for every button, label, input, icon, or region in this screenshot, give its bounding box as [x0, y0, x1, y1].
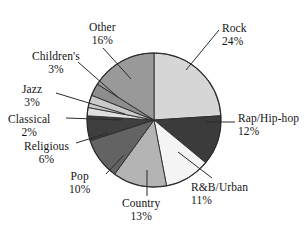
slice-label-other-name: Other [89, 21, 116, 34]
slice-label-country-name: Country [122, 197, 160, 210]
slice-label-other-percent: 16% [89, 34, 116, 47]
slice-label-rnb-urban-name: R&B/Urban [191, 181, 248, 194]
slice-label-jazz-percent: 3% [22, 96, 42, 109]
slice-label-religious: Religious 6% [24, 140, 69, 166]
slice-label-rock-name: Rock [222, 22, 247, 35]
pie-slice-group [87, 53, 221, 187]
slice-label-other: Other 16% [89, 21, 116, 47]
slice-label-rap-hip-hop: Rap/Hip-hop 12% [238, 112, 299, 138]
slice-label-rnb-urban: R&B/Urban 11% [191, 181, 248, 207]
slice-label-childrens: Children's 3% [32, 50, 80, 76]
slice-label-jazz: Jazz 3% [22, 83, 42, 109]
pie-slice-rock [154, 53, 221, 120]
slice-label-country: Country 13% [122, 197, 160, 223]
slice-label-pop-name: Pop [69, 170, 90, 183]
leader-line-rock [186, 30, 219, 70]
slice-label-rock-percent: 24% [222, 35, 247, 48]
slice-label-childrens-name: Children's [32, 50, 80, 63]
pie-chart: Rock 24% Rap/Hip-hop 12% R&B/Urban 11% C… [0, 0, 308, 236]
slice-label-classical-percent: 2% [8, 126, 50, 139]
slice-label-classical-name: Classical [8, 113, 50, 126]
slice-label-childrens-percent: 3% [32, 63, 80, 76]
slice-label-religious-name: Religious [24, 140, 69, 153]
slice-label-pop: Pop 10% [69, 170, 90, 196]
slice-label-pop-percent: 10% [69, 183, 90, 196]
slice-label-rap-hip-hop-name: Rap/Hip-hop [238, 112, 299, 125]
slice-label-religious-percent: 6% [24, 153, 69, 166]
slice-label-rock: Rock 24% [222, 22, 247, 48]
slice-label-jazz-name: Jazz [22, 83, 42, 96]
slice-label-classical: Classical 2% [8, 113, 50, 139]
slice-label-rnb-urban-percent: 11% [191, 194, 248, 207]
slice-label-rap-hip-hop-percent: 12% [238, 125, 299, 138]
slice-label-country-percent: 13% [122, 210, 160, 223]
